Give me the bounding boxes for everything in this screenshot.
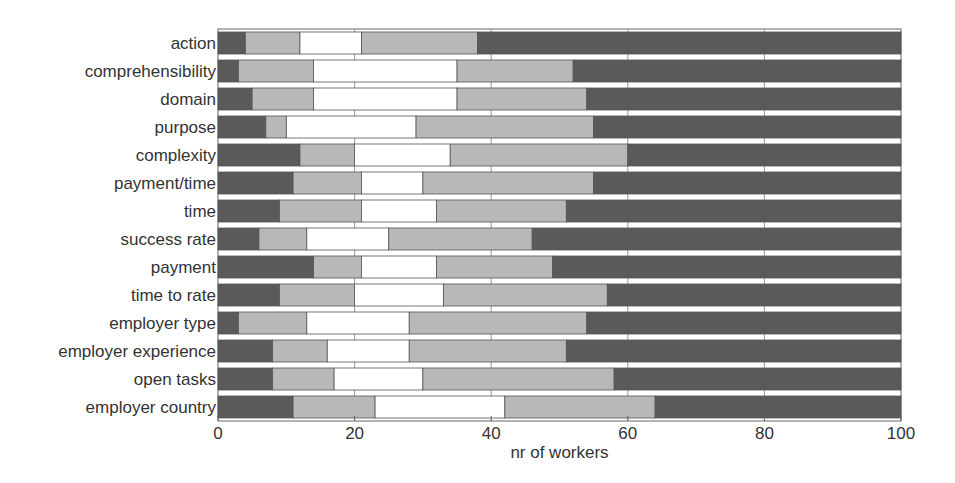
x-tick-label: 80 — [755, 424, 774, 443]
y-axis-label: employer type — [109, 314, 216, 333]
bar-segment — [300, 144, 355, 166]
x-tick-label: 20 — [345, 424, 364, 443]
bar-segment — [355, 144, 451, 166]
bar-segment — [361, 172, 422, 194]
bar-segment — [218, 60, 238, 82]
bar-segment — [327, 340, 409, 362]
y-axis-label: payment — [151, 258, 216, 277]
bar-row — [218, 312, 901, 334]
bar-segment — [293, 172, 361, 194]
y-axis-label: comprehensibility — [85, 62, 217, 81]
y-axis-label: open tasks — [134, 370, 216, 389]
bar-segment — [450, 144, 628, 166]
stacked-bar-chart: actioncomprehensibilitydomainpurposecomp… — [0, 0, 955, 483]
bar-segment — [594, 172, 901, 194]
x-axis-label: nr of workers — [510, 443, 608, 462]
bar-segment — [218, 172, 293, 194]
bar-segment — [355, 284, 444, 306]
bar-segment — [655, 396, 901, 418]
bar-segment — [286, 116, 416, 138]
y-axis-label: employer experience — [58, 342, 216, 361]
bar-segment — [505, 396, 655, 418]
bar-segment — [218, 312, 238, 334]
bar-segment — [361, 256, 436, 278]
x-tick-label: 40 — [482, 424, 501, 443]
bar-segment — [218, 32, 245, 54]
x-tick-label: 60 — [618, 424, 637, 443]
y-axis-label: payment/time — [114, 174, 216, 193]
bar-row — [218, 116, 901, 138]
bar-segment — [218, 200, 279, 222]
bar-segment — [532, 228, 901, 250]
bar-segment — [314, 60, 457, 82]
bar-segment — [478, 32, 901, 54]
bar-segment — [293, 396, 375, 418]
bar-row — [218, 340, 901, 362]
y-axis-label: success rate — [121, 230, 216, 249]
bar-segment — [273, 340, 328, 362]
bar-segment — [279, 200, 361, 222]
bar-segment — [553, 256, 901, 278]
bar-segment — [457, 88, 587, 110]
x-tick-label: 100 — [887, 424, 915, 443]
bar-row — [218, 284, 901, 306]
bar-segment — [409, 312, 587, 334]
bar-segment — [307, 228, 389, 250]
bar-row — [218, 88, 901, 110]
bar-segment — [218, 368, 273, 390]
bar-row — [218, 32, 901, 54]
bar-segment — [266, 116, 286, 138]
bar-segment — [437, 200, 567, 222]
bar-row — [218, 228, 901, 250]
bar-segment — [566, 200, 901, 222]
bar-segment — [375, 396, 505, 418]
bar-row — [218, 60, 901, 82]
bar-row — [218, 368, 901, 390]
bar-segment — [314, 88, 457, 110]
bar-segment — [238, 312, 306, 334]
bar-segment — [423, 172, 594, 194]
bar-row — [218, 256, 901, 278]
y-axis-label: employer country — [86, 398, 217, 417]
bar-segment — [361, 32, 477, 54]
bar-segment — [307, 312, 409, 334]
bar-segment — [607, 284, 901, 306]
y-axis-label: domain — [160, 90, 216, 109]
bar-segment — [218, 144, 300, 166]
bar-segment — [334, 368, 423, 390]
bar-segment — [587, 312, 901, 334]
bar-segment — [389, 228, 532, 250]
bar-segment — [252, 88, 313, 110]
bar-segment — [245, 32, 300, 54]
bar-segment — [416, 116, 594, 138]
y-axis-label: purpose — [155, 118, 216, 137]
y-axis-label: time to rate — [131, 286, 216, 305]
bar-segment — [587, 88, 901, 110]
bar-segment — [259, 228, 307, 250]
bar-segment — [238, 60, 313, 82]
x-tick-label: 0 — [213, 424, 222, 443]
bar-segment — [443, 284, 607, 306]
bar-segment — [423, 368, 614, 390]
bar-segment — [218, 340, 273, 362]
bar-segment — [300, 32, 361, 54]
bar-segment — [614, 368, 901, 390]
y-axis-labels: actioncomprehensibilitydomainpurposecomp… — [58, 34, 216, 417]
y-axis-label: action — [171, 34, 216, 53]
bar-row — [218, 144, 901, 166]
bar-segment — [279, 284, 354, 306]
bar-segment — [314, 256, 362, 278]
bar-segment — [218, 284, 279, 306]
bar-segment — [218, 88, 252, 110]
bar-segment — [218, 116, 266, 138]
bar-segment — [273, 368, 334, 390]
bar-segment — [409, 340, 566, 362]
bar-row — [218, 200, 901, 222]
y-axis-label: complexity — [136, 146, 217, 165]
bar-segment — [218, 228, 259, 250]
bar-segment — [218, 396, 293, 418]
bar-segment — [437, 256, 553, 278]
bar-row — [218, 396, 901, 418]
bar-segment — [361, 200, 436, 222]
bar-segment — [594, 116, 901, 138]
